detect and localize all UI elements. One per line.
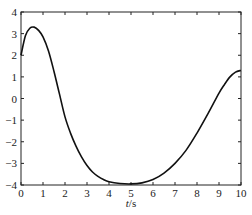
x-tick-label: 0 <box>18 187 24 199</box>
plot-frame <box>21 12 241 185</box>
y-tick-label: 4 <box>12 6 18 18</box>
x-tick-label: 2 <box>62 187 68 199</box>
x-tick-label: 8 <box>194 187 200 199</box>
x-tick-label: 4 <box>106 187 112 199</box>
y-tick-label: −2 <box>5 136 17 148</box>
x-tick-label: 9 <box>216 187 222 199</box>
y-tick-label: 2 <box>12 49 18 61</box>
data-series-line <box>21 27 241 184</box>
x-axis-label: t/s <box>126 197 136 209</box>
x-tick-label: 7 <box>172 187 178 199</box>
y-tick-label: 1 <box>12 71 18 83</box>
line-chart: 012345678910 −4−3−2−101234 t/s <box>0 0 252 215</box>
y-tick-label: 0 <box>12 93 18 105</box>
y-tick-label: 3 <box>12 28 18 40</box>
x-tick-label: 1 <box>40 187 46 199</box>
x-tick-label: 10 <box>236 187 248 199</box>
y-tick-label: −1 <box>5 114 17 126</box>
x-tick-label: 6 <box>150 187 156 199</box>
x-tick-label: 3 <box>84 187 90 199</box>
y-tick-label: −3 <box>5 157 17 169</box>
y-tick-label: −4 <box>5 179 17 191</box>
